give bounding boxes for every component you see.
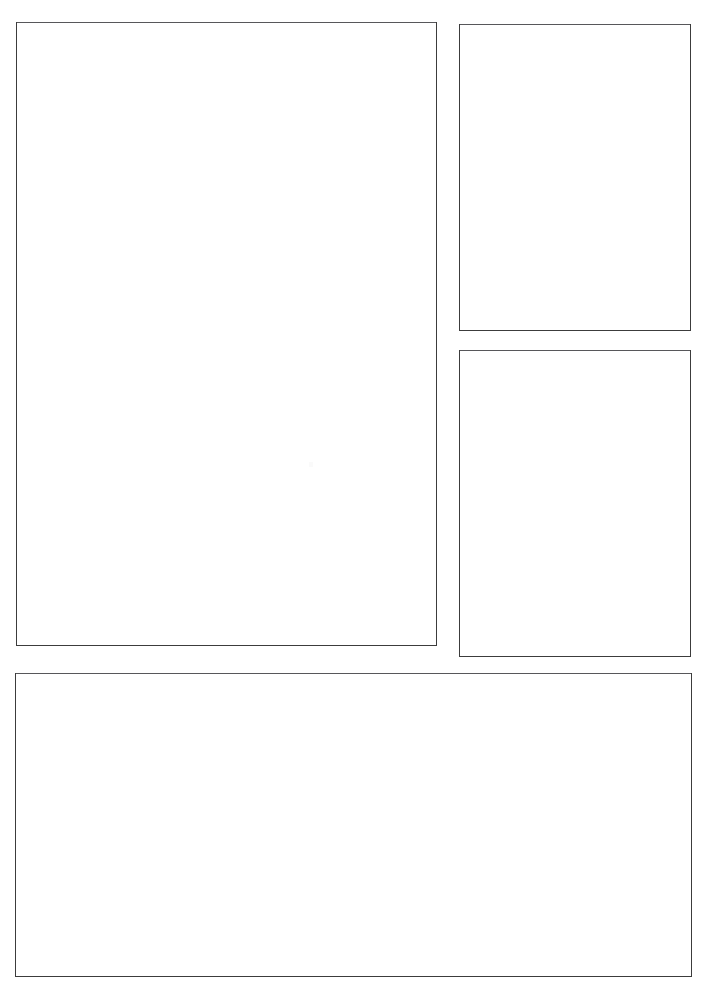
bottom-wide-panel[interactable] bbox=[15, 673, 692, 977]
main-panel-content bbox=[17, 23, 436, 645]
bottom-wide-panel-content bbox=[16, 674, 691, 976]
middle-right-panel-content bbox=[460, 351, 690, 656]
top-right-panel[interactable] bbox=[459, 24, 691, 331]
main-panel[interactable] bbox=[16, 22, 437, 646]
top-right-panel-content bbox=[460, 25, 690, 330]
middle-right-panel[interactable] bbox=[459, 350, 691, 657]
page-canvas bbox=[0, 0, 708, 986]
faint-speck bbox=[309, 462, 313, 467]
